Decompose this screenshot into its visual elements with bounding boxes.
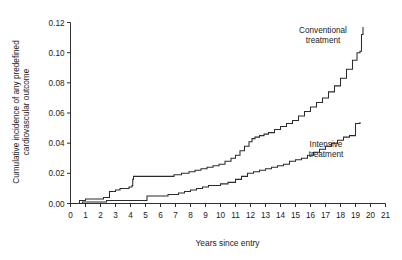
annotation-intensive-treatment: Intensive treatment: [296, 140, 356, 160]
chart-figure: 0.000.020.040.060.080.100.12 01234567891…: [0, 0, 402, 260]
x-tick-label: 9: [203, 211, 208, 220]
y-tick-label: 0.06: [49, 109, 65, 118]
annotation-conventional-treatment: Conventional treatment: [290, 26, 356, 46]
axes: 0.000.020.040.060.080.100.12 01234567891…: [49, 19, 391, 220]
x-axis-ticks: 0123456789101112131415161718192021: [68, 204, 390, 220]
x-tick-label: 1: [83, 211, 88, 220]
y-tick-label: 0.02: [49, 169, 65, 178]
x-tick-label: 20: [366, 211, 376, 220]
data-curves: [71, 27, 364, 203]
y-tick-label: 0.08: [49, 79, 65, 88]
x-tick-label: 10: [216, 211, 226, 220]
x-tick-label: 6: [158, 211, 163, 220]
y-tick-label: 0.04: [49, 139, 65, 148]
y-tick-label: 0.12: [49, 19, 65, 28]
x-tick-label: 5: [143, 211, 148, 220]
x-axis-label: Years since entry: [70, 238, 385, 248]
y-tick-label: 0.10: [49, 49, 65, 58]
x-tick-label: 21: [381, 211, 391, 220]
y-tick-label: 0.00: [49, 200, 65, 209]
x-tick-label: 2: [98, 211, 103, 220]
x-tick-label: 16: [306, 211, 316, 220]
x-tick-label: 0: [68, 211, 73, 220]
x-tick-label: 15: [291, 211, 301, 220]
x-tick-label: 18: [336, 211, 346, 220]
series-line-conventional-treatment: [71, 27, 364, 203]
x-tick-label: 4: [128, 211, 133, 220]
x-tick-label: 7: [173, 211, 178, 220]
x-tick-label: 19: [351, 211, 361, 220]
x-tick-label: 12: [246, 211, 256, 220]
x-tick-label: 8: [188, 211, 193, 220]
x-tick-label: 3: [113, 211, 118, 220]
x-tick-label: 14: [276, 211, 286, 220]
y-axis-ticks: 0.000.020.040.060.080.100.12: [49, 19, 71, 209]
x-tick-label: 17: [321, 211, 331, 220]
x-tick-label: 11: [231, 211, 240, 220]
x-tick-label: 13: [261, 211, 271, 220]
